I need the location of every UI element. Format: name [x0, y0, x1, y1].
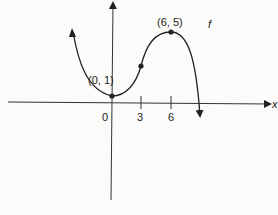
label-point-min: (0, 1): [88, 74, 114, 86]
x-axis: [8, 102, 270, 104]
point-minimum: [109, 93, 114, 98]
label-x-axis: x: [271, 98, 278, 110]
graph-svg: (0, 1) (6, 5) 0 3 6 x f: [0, 0, 278, 215]
label-point-max: (6, 5): [157, 16, 183, 28]
label-tick-3: 3: [137, 111, 143, 123]
label-function: f: [208, 18, 212, 30]
label-tick-0: 0: [102, 111, 108, 123]
function-graph: (0, 1) (6, 5) 0 3 6 x f: [0, 0, 278, 215]
y-axis: [111, 3, 113, 200]
label-tick-6: 6: [168, 111, 174, 123]
point-inflection: [138, 63, 143, 68]
left-arrow-head: [69, 28, 76, 37]
point-maximum: [168, 29, 173, 34]
